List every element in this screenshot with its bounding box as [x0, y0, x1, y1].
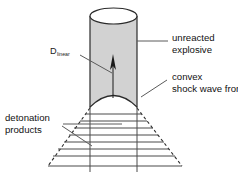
detonation-diagram-figure: unreacted explosive convex shock wave fr… [0, 0, 238, 186]
fan-left-edge-dashed [48, 108, 90, 166]
fan-right-edge-dashed [137, 108, 182, 166]
label-velocity-symbol: D [50, 46, 57, 56]
label-velocity-subscript: linear [57, 51, 70, 57]
cylinder-top-ellipse [90, 8, 137, 24]
leader-line-detonation-products-lower [62, 126, 92, 146]
label-detonation-line2: products [5, 124, 42, 135]
diagram-canvas: unreacted explosive convex shock wave fr… [0, 0, 238, 186]
leader-line-convex-shock [141, 80, 167, 97]
label-convex-line1: convex [172, 71, 203, 82]
label-unreacted-line2: explosive [172, 44, 212, 55]
detonation-products-fan [48, 108, 182, 172]
label-convex-line2: shock wave front [172, 83, 238, 94]
label-detonation-line1: detonation [5, 112, 50, 123]
label-unreacted-line1: unreacted [172, 32, 215, 43]
